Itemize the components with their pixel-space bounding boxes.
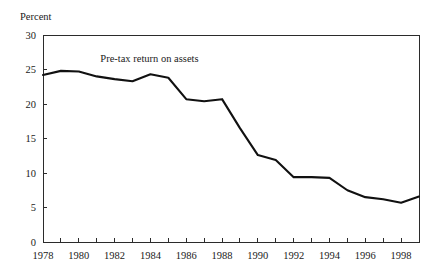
line-chart: Percent 051015202530 1978198019821984198… (0, 0, 439, 278)
y-tick-label: 5 (31, 202, 36, 213)
y-tick-label: 30 (26, 30, 37, 41)
series-annotation-label: Pre-tax return on assets (100, 53, 198, 64)
data-series-group (43, 71, 419, 203)
x-tick-label: 1982 (104, 250, 125, 261)
chart-figure: Percent 051015202530 1978198019821984198… (0, 0, 439, 278)
y-tick-label: 0 (31, 237, 36, 248)
y-tick-label: 25 (26, 64, 37, 75)
y-axis-ticks: 051015202530 (26, 30, 48, 248)
x-tick-label: 1998 (391, 250, 412, 261)
x-axis-ticks: 1978198019821984198619881990199219941996… (33, 238, 420, 261)
y-axis-title: Percent (20, 11, 52, 22)
series-line-pre-tax-return-on-assets (43, 71, 419, 203)
x-tick-label: 1996 (355, 250, 376, 261)
plot-border (43, 35, 419, 242)
x-tick-label: 1988 (212, 250, 233, 261)
y-tick-label: 20 (26, 99, 37, 110)
x-tick-label: 1978 (33, 250, 54, 261)
y-tick-label: 15 (26, 133, 37, 144)
y-tick-label: 10 (26, 168, 37, 179)
x-tick-label: 1986 (176, 250, 197, 261)
plot-frame (43, 35, 419, 242)
x-tick-label: 1984 (140, 250, 162, 261)
x-tick-label: 1990 (247, 250, 268, 261)
x-tick-label: 1992 (283, 250, 304, 261)
x-tick-label: 1994 (319, 250, 341, 261)
x-tick-label: 1980 (68, 250, 89, 261)
